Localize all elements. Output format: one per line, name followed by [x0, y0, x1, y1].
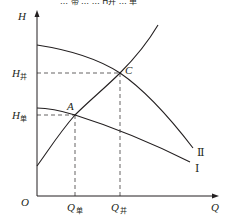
svg-text:单: 单 [76, 206, 83, 215]
svg-text:Q: Q [111, 201, 119, 213]
point-A-label: A [66, 100, 74, 112]
svg-text:Q: Q [67, 201, 75, 213]
q-single-tick: Q 单 [67, 201, 83, 215]
curve-I-label: Ⅰ [195, 162, 199, 174]
svg-text:单: 单 [20, 114, 27, 123]
x-axis-arrow-icon [212, 194, 219, 199]
q-parallel-tick: Q 并 [111, 201, 127, 215]
svg-text:并: 并 [20, 72, 27, 81]
h-single-tick: H 单 [11, 109, 27, 123]
x-axis-label: Q [211, 201, 219, 213]
pump-parallel-diagram: … 帯 … … H并 … 单 H Q O Ⅱ Ⅰ C A H 并 H 单 Q 单 [0, 0, 230, 218]
guide-lines [37, 73, 120, 196]
top-cut-text: … 帯 … … H并 … 单 [60, 0, 137, 6]
svg-text:… 帯 … … H并 … 单: … 帯 … … H并 … 单 [60, 0, 137, 6]
y-axis-arrow-icon [35, 10, 40, 17]
axes [37, 14, 214, 196]
origin-label: O [21, 196, 29, 208]
curve-II-label: Ⅱ [197, 146, 204, 158]
system-curve [37, 25, 158, 166]
h-parallel-tick: H 并 [11, 67, 27, 81]
curves [37, 25, 193, 166]
y-axis-label: H [17, 10, 27, 22]
point-C-label: C [125, 64, 133, 76]
svg-text:并: 并 [120, 206, 127, 215]
